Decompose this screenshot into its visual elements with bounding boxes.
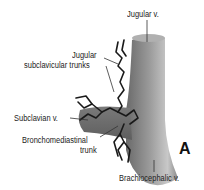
label-jugular-trunk-1: Jugular (72, 50, 97, 60)
label-broncho-1: Bronchomediastinal (22, 135, 88, 145)
label-broncho-2: trunk (80, 145, 97, 155)
label-jugular-trunk-2: subclavicular trunks (24, 60, 90, 70)
panel-letter: A (179, 140, 191, 158)
label-brachiocephalic-v: Brachiocephalic v. (119, 173, 179, 183)
label-jugular-v: Jugular v. (127, 9, 159, 19)
label-subclavian-v: Subclavian v. (14, 113, 58, 123)
anatomy-illustration (0, 0, 204, 190)
